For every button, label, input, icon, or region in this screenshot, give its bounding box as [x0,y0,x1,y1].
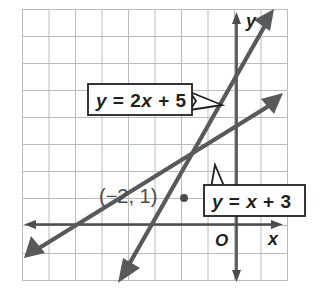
callout-line2: y = x + 3 [204,165,305,216]
grid [22,9,288,281]
y-axis-label: y [245,11,257,31]
callout-line1-label: y = 2x + 5 [95,90,187,111]
callout-line2-eq: = [223,191,246,212]
x-axis-label: x [267,229,279,249]
intersection-point-marker [180,194,188,202]
x-axis-arrow-right [271,220,283,229]
x-axis-arrow-left [24,220,36,229]
y-axis-arrow-up [232,12,241,24]
callout-line1-y: y [95,90,108,111]
callout-line2-x: x [245,191,258,212]
callout-line2-label: y = x + 3 [211,191,292,212]
intersection-point-label: (−2, 1) [99,185,157,207]
callout-line1: y = 2x + 5 [88,84,222,115]
callout-line2-y: y [211,191,224,212]
callout-line2-rest: + 3 [257,191,291,212]
callout-line1-x: x [140,90,153,111]
axes [24,12,283,282]
line-y-equals-2x-plus-5 [118,9,274,283]
coordinate-graph-figure: (−2, 1) y = 2x + 5 y = x + 3 y x O [0,0,327,297]
callout-line1-eq: = 2 [107,90,141,111]
callout-line1-rest: + 5 [152,90,186,111]
origin-label: O [215,231,228,250]
